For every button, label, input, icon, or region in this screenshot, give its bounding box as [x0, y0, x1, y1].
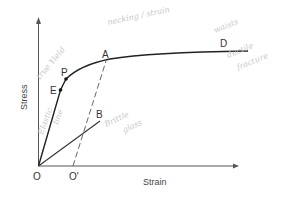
note-ductile-1: waists [212, 17, 239, 35]
label-d: D [220, 38, 227, 49]
ductile-curve [39, 51, 249, 166]
label-a: A [102, 49, 109, 60]
x-axis-arrow-icon [233, 164, 239, 169]
point-e-marker [59, 88, 63, 92]
y-axis-label: Stress [19, 84, 29, 110]
label-p: P [61, 67, 68, 78]
label-e: E [50, 85, 57, 96]
y-axis [36, 17, 41, 166]
x-axis-label: Strain [143, 177, 167, 187]
note-necking: necking / strain [107, 5, 171, 27]
label-o: O [33, 171, 41, 182]
y-axis-arrow-icon [36, 17, 41, 24]
label-b: B [96, 109, 103, 120]
label-o-prime: O' [69, 171, 79, 182]
stress-strain-diagram: P E A D B O O' Strain Stress true Yield … [0, 0, 285, 199]
x-axis [39, 164, 240, 169]
